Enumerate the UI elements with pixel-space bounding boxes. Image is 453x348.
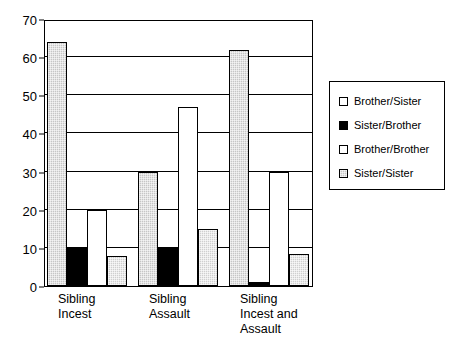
y-axis-tick-label: 10: [23, 242, 37, 255]
bar-group: [229, 21, 311, 286]
x-axis-category-label: Sibling Incest and Assault: [240, 292, 298, 337]
bar: [158, 248, 178, 286]
y-axis-tick-label: 40: [23, 128, 37, 141]
bar-chart-figure: 010203040506070 Sibling IncestSibling As…: [0, 0, 453, 348]
legend-item-label: Brother/Sister: [354, 96, 421, 107]
y-axis-tick-label: 20: [23, 204, 37, 217]
bar: [47, 42, 67, 286]
y-axis-tick-label: 30: [23, 166, 37, 179]
legend-item-label: Brother/Brother: [354, 144, 429, 155]
y-axis-tick-label: 50: [23, 90, 37, 103]
bar: [107, 256, 127, 287]
plot-inner: [45, 21, 312, 286]
y-axis-tick-label: 70: [23, 14, 37, 27]
bar: [229, 50, 249, 286]
x-axis-category-labels: Sibling IncestSibling AssaultSibling Inc…: [44, 292, 313, 348]
legend-item[interactable]: Sister/Brother: [339, 113, 444, 137]
bar: [138, 172, 158, 286]
legend-item-label: Sister/Sister: [354, 168, 413, 179]
legend-swatch-icon: [339, 169, 348, 178]
bar: [289, 254, 309, 286]
legend-item[interactable]: Sister/Sister: [339, 161, 444, 185]
chart-legend: Brother/SisterSister/BrotherBrother/Brot…: [329, 81, 445, 190]
bar-group: [138, 21, 220, 286]
legend-swatch-icon: [339, 97, 348, 106]
legend-item[interactable]: Brother/Sister: [339, 89, 444, 113]
y-axis: 010203040506070: [0, 0, 44, 348]
bar: [67, 248, 87, 286]
x-axis-category-label: Sibling Incest: [58, 292, 96, 322]
y-axis-tick-label: 60: [23, 52, 37, 65]
bar: [269, 172, 289, 286]
bar-group: [47, 21, 129, 286]
bar: [249, 282, 269, 286]
plot-area: [44, 20, 313, 287]
bar: [87, 210, 107, 286]
bar: [178, 107, 198, 286]
x-axis-category-label: Sibling Assault: [149, 292, 190, 322]
legend-swatch-icon: [339, 145, 348, 154]
legend-swatch-icon: [339, 121, 348, 130]
bar: [198, 229, 218, 286]
y-axis-tick-label: 0: [30, 281, 37, 294]
legend-item-label: Sister/Brother: [354, 120, 421, 131]
legend-item[interactable]: Brother/Brother: [339, 137, 444, 161]
